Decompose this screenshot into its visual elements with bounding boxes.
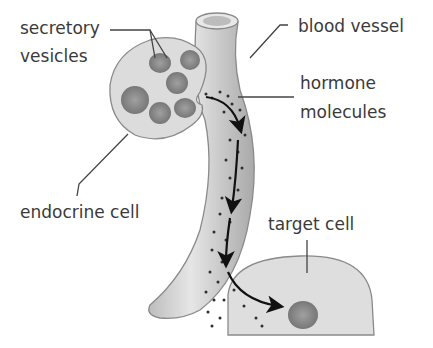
label-molecules: molecules	[300, 102, 386, 122]
label-vesicles: vesicles	[20, 46, 88, 66]
endocrine-diagram: secretory vesicles blood vessel hormone …	[0, 0, 433, 348]
target-nucleus	[288, 301, 318, 329]
label-secretory: secretory	[20, 18, 100, 38]
label-hormone: hormone	[300, 73, 376, 93]
label-endocrine-cell: endocrine cell	[20, 202, 139, 222]
endocrine-cell	[110, 38, 206, 139]
label-target-cell: target cell	[268, 214, 354, 234]
label-blood-vessel: blood vessel	[298, 16, 404, 36]
